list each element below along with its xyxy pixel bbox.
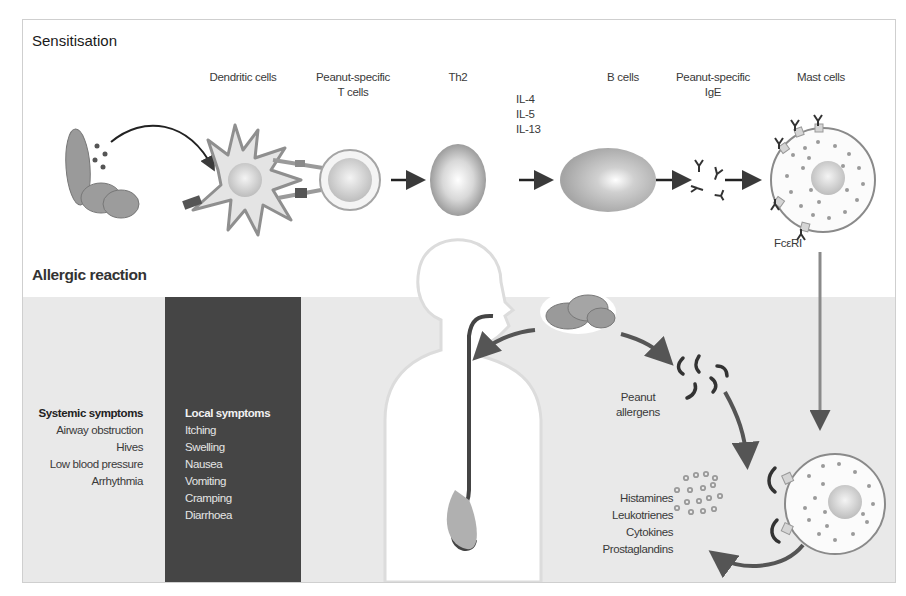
systemic-symptoms-list: Systemic symptoms Airway obstruction Hiv… [23, 405, 143, 490]
local-symptom-item: Swelling [185, 439, 270, 456]
mediator-item: Prostaglandins [568, 541, 673, 558]
peanut-allergen-fragments-icon [679, 356, 728, 398]
label-line: IgE [663, 85, 763, 100]
b-cell-icon [560, 148, 656, 212]
arrow-mast-to-mediators [715, 545, 803, 566]
label-line: Peanut [608, 390, 668, 405]
cytokine-il5: IL-5 [516, 107, 556, 122]
label-line: allergens [608, 405, 668, 420]
cytokine-il4: IL-4 [516, 92, 556, 107]
systemic-symptom-item: Hives [23, 439, 143, 456]
systemic-symptom-item: Airway obstruction [23, 422, 143, 439]
local-symptoms-list: Local symptoms Itching Swelling Nausea V… [185, 405, 270, 524]
label-peanut-specific-ige: Peanut-specific IgE [663, 70, 763, 100]
systemic-symptoms-heading: Systemic symptoms [23, 405, 143, 422]
arrow-allergens-to-mast [725, 392, 747, 462]
cytokine-il13: IL-13 [516, 122, 556, 137]
mediator-granules-icon [675, 472, 722, 514]
figure-frame: Sensitisation Allergic reaction Dendriti… [22, 19, 896, 583]
t-cell-icon [320, 150, 380, 210]
local-symptom-item: Diarrhoea [185, 507, 270, 524]
uptake-arrow [111, 126, 213, 168]
sensitisation-title: Sensitisation [32, 32, 117, 49]
ige-antibody-icon [691, 160, 728, 203]
label-peanut-allergens: Peanut allergens [608, 390, 668, 420]
label-th2: Th2 [433, 70, 483, 85]
allergic-reaction-title: Allergic reaction [32, 266, 147, 284]
diagram-graphics [23, 20, 895, 582]
peanut-icon [63, 128, 139, 218]
label-b-cells: B cells [593, 70, 653, 85]
label-mast-cells: Mast cells [781, 70, 861, 85]
mast-cell-icon [771, 115, 875, 240]
label-line: Peanut-specific [663, 70, 763, 85]
local-symptom-item: Cramping [185, 490, 270, 507]
mediator-item: Leukotrienes [568, 507, 673, 524]
th2-cell-icon [430, 144, 486, 216]
peanut-cluster-icon [540, 290, 616, 334]
label-line: Peanut-specific [303, 70, 403, 85]
mediator-item: Histamines [568, 490, 673, 507]
local-symptom-item: Itching [185, 422, 270, 439]
systemic-symptom-item: Low blood pressure [23, 456, 143, 473]
degranulating-mast-cell-icon [769, 454, 885, 554]
arrow-peanut-to-allergens [621, 334, 668, 360]
mediator-item: Cytokines [568, 524, 673, 541]
label-line: T cells [303, 85, 403, 100]
cytokine-list: IL-4 IL-5 IL-13 [516, 92, 556, 137]
human-silhouette-icon [385, 240, 541, 582]
systemic-symptom-item: Arrhythmia [23, 473, 143, 490]
local-symptom-item: Nausea [185, 456, 270, 473]
mediators-list: Histamines Leukotrienes Cytokines Prosta… [568, 490, 673, 558]
dendritic-cell-icon [182, 125, 301, 235]
local-symptoms-heading: Local symptoms [185, 405, 270, 422]
label-dendritic-cells: Dendritic cells [193, 70, 293, 85]
local-symptom-item: Vomiting [185, 473, 270, 490]
label-peanut-specific-t-cells: Peanut-specific T cells [303, 70, 403, 100]
label-fceri-receptor: FcεRI [763, 236, 813, 251]
